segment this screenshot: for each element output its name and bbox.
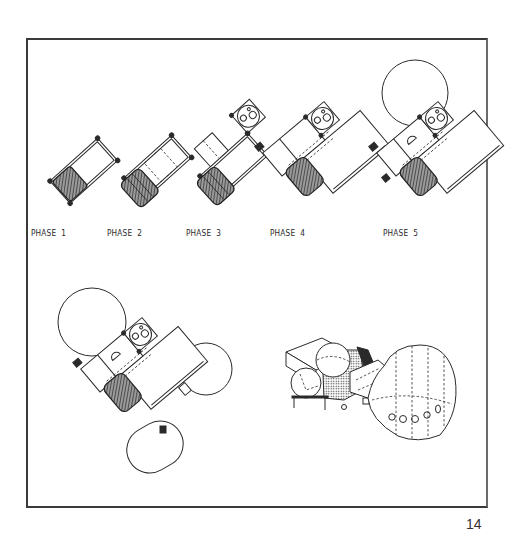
phase-2-label: PHASE 2 bbox=[107, 229, 142, 238]
phase-3-label: PHASE 3 bbox=[186, 229, 221, 238]
diagram-canvas bbox=[0, 0, 512, 538]
final-isometric-drawing bbox=[286, 338, 456, 440]
page-number: 14 bbox=[466, 516, 482, 532]
final-plan-drawing bbox=[58, 288, 232, 481]
phase-4-label: PHASE 4 bbox=[270, 229, 305, 238]
phase-1-drawing bbox=[47, 135, 121, 206]
phase-2-drawing bbox=[117, 132, 196, 209]
phase-5-label: PHASE 5 bbox=[383, 229, 418, 238]
phase-1-label: PHASE 1 bbox=[31, 229, 66, 238]
